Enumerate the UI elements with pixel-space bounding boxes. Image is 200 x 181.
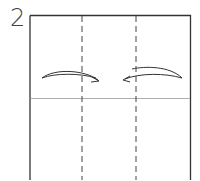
fold-arrow-left-icon: [123, 67, 182, 82]
origami-diagram: [0, 0, 200, 180]
paper-outline: [30, 16, 191, 181]
fold-arrow-right-icon: [42, 71, 99, 82]
